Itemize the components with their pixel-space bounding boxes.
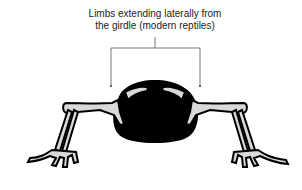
leader-lines [111, 37, 200, 85]
reptile-skeleton-illustration [0, 0, 302, 190]
body-torso [113, 80, 198, 143]
leader-dot-left [110, 85, 112, 87]
leader-dot-right [199, 85, 201, 87]
